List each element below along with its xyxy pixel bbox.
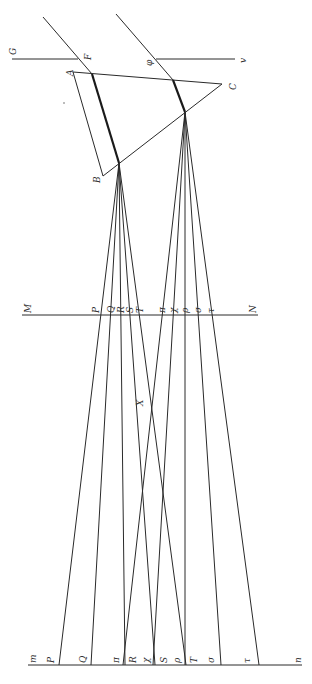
mn-label-S: S [125,307,135,313]
label-B: B [92,176,102,184]
label-A: A [65,69,75,77]
ray-pi [123,112,185,665]
label-X: X [135,399,145,407]
label-m: m [28,654,38,663]
small-dot-mark [63,102,65,104]
mn-label-Q: Q [106,305,116,313]
ray-sigma [185,112,221,665]
label-N: N [248,304,258,314]
bottom-label-T: T [189,656,199,663]
label-F: F [83,53,93,61]
bottom-label-Q: Q [78,655,88,663]
bottom-label-S: S [159,657,169,663]
mn-label-P: P [91,306,101,314]
ray-T [119,163,186,665]
ray-tau [185,112,259,665]
label-v: v [238,58,248,63]
bottom-label-rho: ρ [172,657,182,664]
bottom-label-pi: π [111,656,121,664]
bottom-label-chi: χ [141,657,151,664]
bottom-label-sigma: σ [206,656,216,663]
mn-label-sigma: σ [193,306,203,313]
labels: G F φ v A B C M N X m n P Q R S T π χ ρ … [8,48,303,664]
right-dispersion-fan [123,112,259,665]
label-n: n [293,657,303,663]
mn-label-pi: π [157,306,167,314]
bottom-label-R: R [128,656,138,664]
ray-chi [153,112,185,665]
prism-refraction-diagram: G F φ v A B C M N X m n P Q R S T π χ ρ … [0,0,312,684]
label-phi: φ [144,59,154,66]
refracted-ray-1 [92,74,119,163]
bottom-label-tau: τ [242,657,252,663]
label-M: M [23,303,33,314]
ray-P [59,163,119,665]
refracted-ray-2 [173,80,185,112]
mn-label-rho: ρ [180,307,190,314]
ray-Q [91,163,119,665]
label-G: G [8,48,18,55]
mn-label-chi: χ [168,307,178,314]
left-dispersion-fan [59,163,186,665]
mn-label-T: T [135,306,145,313]
label-C: C [228,83,238,90]
bottom-label-P: P [46,656,56,664]
incident-ray-2 [116,14,173,80]
incident-ray-1 [43,17,92,74]
